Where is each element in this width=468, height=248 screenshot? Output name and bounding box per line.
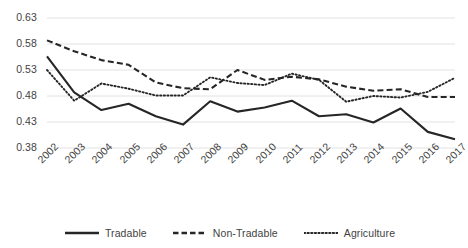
legend-item-non-tradable[interactable]: Non-Tradable [173,227,278,239]
legend-swatch-dashed-icon [173,228,207,238]
series-lines [47,40,455,139]
y-tick-label: 0.43 [3,115,37,127]
y-tick-label: 0.63 [3,11,37,23]
y-tick-label: 0.53 [3,63,37,75]
legend-label-non-tradable: Non-Tradable [213,227,278,239]
series-line-non-tradable [47,40,455,97]
gridlines [47,18,455,148]
y-tick-label: 0.58 [3,37,37,49]
legend-item-agriculture[interactable]: Agriculture [304,227,395,239]
y-tick-label: 0.38 [3,141,37,153]
series-line-tradable [47,56,455,139]
chart-legend: Tradable Non-Tradable Agriculture [0,222,460,244]
legend-item-tradable[interactable]: Tradable [65,227,147,239]
legend-label-agriculture: Agriculture [344,227,395,239]
legend-swatch-dotted-icon [304,228,338,238]
y-tick-label: 0.48 [3,89,37,101]
legend-swatch-solid-icon [65,228,99,238]
legend-label-tradable: Tradable [105,227,147,239]
series-line-agriculture [47,70,455,102]
